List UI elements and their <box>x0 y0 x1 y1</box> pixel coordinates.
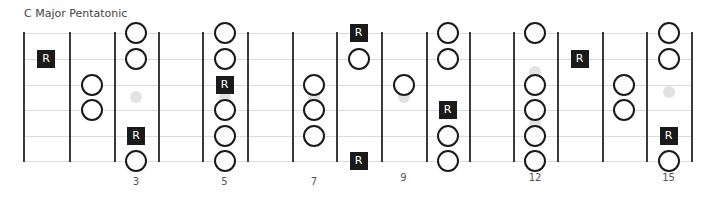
scale-note-circle <box>437 48 459 70</box>
scale-note-circle <box>613 99 635 121</box>
fret-line <box>426 32 428 162</box>
scale-note-circle <box>524 74 546 96</box>
fret-line <box>292 32 294 162</box>
root-note-marker: R <box>350 152 368 170</box>
root-note-marker: R <box>37 50 55 68</box>
inlay-dot-icon <box>130 91 142 103</box>
fret-line <box>114 32 116 162</box>
scale-note-circle <box>214 48 236 70</box>
fret-number-label: 3 <box>124 176 148 187</box>
scale-note-circle <box>524 99 546 121</box>
fret-number-label: 15 <box>657 172 681 183</box>
scale-note-circle <box>214 150 236 172</box>
fret-number-label: 9 <box>392 172 416 183</box>
fret-line <box>557 32 559 162</box>
scale-note-circle <box>524 22 546 44</box>
fret-line <box>247 32 249 162</box>
root-note-marker: R <box>350 24 368 42</box>
scale-note-circle <box>214 22 236 44</box>
string-line <box>23 85 693 86</box>
scale-note-circle <box>81 99 103 121</box>
scale-note-circle <box>437 125 459 147</box>
fret-line <box>469 32 471 162</box>
string-line <box>23 110 693 111</box>
fret-line <box>69 32 71 162</box>
fret-line <box>336 32 338 162</box>
string-line <box>23 136 693 137</box>
fret-number-label: 12 <box>523 172 547 183</box>
scale-note-circle <box>214 99 236 121</box>
scale-note-circle <box>303 74 325 96</box>
fret-line <box>646 32 648 162</box>
scale-note-circle <box>125 150 147 172</box>
scale-note-circle <box>393 74 415 96</box>
inlay-dot-icon <box>663 86 675 98</box>
root-note-marker: R <box>216 76 234 94</box>
scale-note-circle <box>437 22 459 44</box>
scale-note-circle <box>524 150 546 172</box>
fret-line <box>691 32 693 162</box>
fret-line <box>381 32 383 162</box>
root-note-marker: R <box>660 127 678 145</box>
scale-note-circle <box>437 150 459 172</box>
fret-line <box>202 32 204 162</box>
root-note-marker: R <box>571 50 589 68</box>
scale-note-circle <box>658 22 680 44</box>
scale-note-circle <box>125 22 147 44</box>
fret-line <box>602 32 604 162</box>
fret-number-label: 5 <box>213 176 237 187</box>
scale-note-circle <box>658 150 680 172</box>
scale-note-circle <box>214 125 236 147</box>
root-note-marker: R <box>127 127 145 145</box>
scale-note-circle <box>81 74 103 96</box>
scale-note-circle <box>524 125 546 147</box>
scale-note-circle <box>303 99 325 121</box>
scale-note-circle <box>348 48 370 70</box>
fret-number-label: 7 <box>302 176 326 187</box>
scale-note-circle <box>125 48 147 70</box>
root-note-marker: R <box>439 101 457 119</box>
scale-note-circle <box>658 48 680 70</box>
scale-note-circle <box>303 125 325 147</box>
scale-note-circle <box>613 74 635 96</box>
fret-line <box>23 32 25 162</box>
fret-line <box>513 32 515 162</box>
fretboard: RRRRRRRR35791215 <box>0 0 726 197</box>
fret-line <box>158 32 160 162</box>
